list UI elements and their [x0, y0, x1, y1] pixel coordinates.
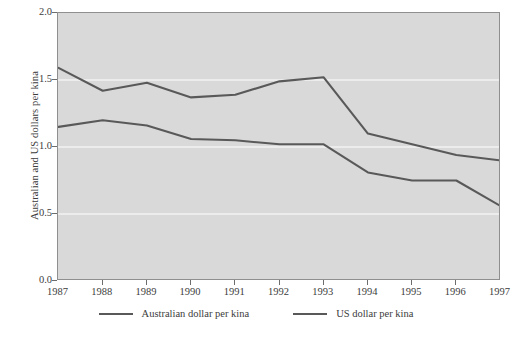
x-tick-label: 1997 — [476, 286, 512, 298]
x-tick-mark — [323, 280, 324, 285]
legend-item-2[interactable]: US dollar per kina — [293, 308, 413, 320]
x-tick-label: 1993 — [299, 286, 347, 298]
x-tick-label: 1996 — [431, 286, 479, 298]
legend-line-swatch — [99, 313, 133, 315]
x-tick-label: 1989 — [122, 286, 170, 298]
x-tick-label: 1991 — [210, 286, 258, 298]
x-tick-label: 1994 — [343, 286, 391, 298]
legend-label: US dollar per kina — [336, 308, 413, 320]
x-tick-label: 1988 — [78, 286, 126, 298]
x-tick-mark — [146, 280, 147, 285]
x-tick-label: 1990 — [166, 286, 214, 298]
legend-label: Australian dollar per kina — [142, 308, 250, 320]
x-tick-mark — [411, 280, 412, 285]
chart-legend: Australian dollar per kinaUS dollar per … — [0, 308, 512, 320]
x-tick-mark — [102, 280, 103, 285]
x-tick-label: 1987 — [34, 286, 82, 298]
x-tick-label: 1995 — [387, 286, 435, 298]
x-tick-mark — [279, 280, 280, 285]
x-tick-mark — [367, 280, 368, 285]
legend-line-swatch — [293, 313, 327, 315]
x-tick-mark — [190, 280, 191, 285]
x-axis-tick-labels: 1987198819891990199119921993199419951996… — [0, 0, 512, 337]
x-tick-label: 1992 — [255, 286, 303, 298]
chart-figure: Australian and US dollars per kina 0.00.… — [0, 0, 512, 337]
legend-item-1[interactable]: Australian dollar per kina — [99, 308, 250, 320]
x-tick-mark — [234, 280, 235, 285]
x-tick-mark — [455, 280, 456, 285]
